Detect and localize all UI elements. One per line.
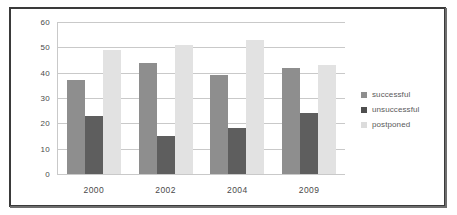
bar-unsuccessful-0[interactable] [85,116,103,174]
bar-postponed-0[interactable] [103,50,121,174]
bar-groups: 2000 2002 2004 [58,22,345,174]
bar-chart: 60 50 40 30 20 10 0 [9,7,446,207]
legend-swatch-icon-successful [361,92,367,98]
bar-group-3: 2009 [282,22,336,174]
chart-screenshot: 60 50 40 30 20 10 0 [0,0,457,215]
y-tick-label-10: 10 [41,144,51,153]
bar-postponed-2[interactable] [246,40,264,174]
chart-legend: successful unsuccessful postponed [361,90,419,129]
legend-item-successful[interactable]: successful [361,90,419,99]
bar-unsuccessful-1[interactable] [157,136,175,174]
legend-label-successful: successful [372,90,410,99]
x-tick-label-2: 2004 [227,185,248,195]
y-tick-label-0: 0 [45,170,50,179]
y-tick-label-50: 50 [41,43,51,52]
bar-successful-3[interactable] [282,68,300,174]
y-tick-label-60: 60 [41,18,51,27]
legend-swatch-icon-unsuccessful [361,107,367,113]
bar-postponed-3[interactable] [318,65,336,174]
plot-area: 60 50 40 30 20 10 0 [57,22,345,174]
x-tick-label-1: 2002 [155,185,176,195]
y-tick-label-30: 30 [41,94,51,103]
gridline-0: 0 [57,174,345,175]
bar-postponed-1[interactable] [175,45,193,174]
legend-item-postponed[interactable]: postponed [361,120,419,129]
bar-successful-1[interactable] [139,63,157,174]
x-tick-label-0: 2000 [84,185,105,195]
legend-label-postponed: postponed [372,120,410,129]
legend-label-unsuccessful: unsuccessful [372,105,419,114]
bar-unsuccessful-3[interactable] [300,113,318,174]
bar-successful-0[interactable] [67,80,85,174]
x-tick-label-3: 2009 [299,185,320,195]
bar-successful-2[interactable] [210,75,228,174]
legend-item-unsuccessful[interactable]: unsuccessful [361,105,419,114]
bar-group-1: 2002 [139,22,193,174]
bar-group-2: 2004 [210,22,264,174]
y-tick-label-40: 40 [41,68,51,77]
bar-group-0: 2000 [67,22,121,174]
legend-swatch-icon-postponed [361,122,367,128]
y-tick-label-20: 20 [41,119,51,128]
bar-unsuccessful-2[interactable] [228,128,246,174]
